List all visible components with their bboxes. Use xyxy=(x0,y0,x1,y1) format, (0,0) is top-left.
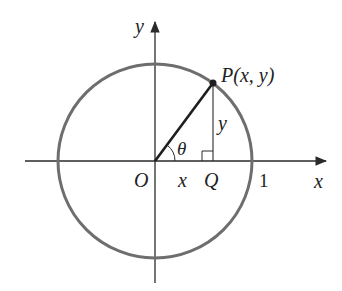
y-axis-label: y xyxy=(133,15,144,38)
unit-circle-diagram: y x O P(x, y) Q θ y x 1 xyxy=(0,0,342,291)
right-angle-marker xyxy=(202,151,213,161)
point-q-label: Q xyxy=(204,169,219,191)
point-p-label: P(x, y) xyxy=(220,64,275,87)
x-axis-label: x xyxy=(313,170,323,192)
point-p xyxy=(210,80,217,87)
unit-tick-label: 1 xyxy=(259,170,269,191)
angle-theta-label: θ xyxy=(177,138,186,159)
angle-arc xyxy=(167,145,175,161)
horizontal-side-label: x xyxy=(177,169,187,191)
origin-label: O xyxy=(134,169,148,191)
vertical-side-label: y xyxy=(216,112,227,135)
